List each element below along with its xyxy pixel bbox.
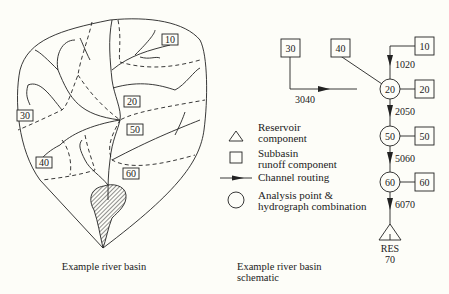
svg-text:50: 50 — [420, 131, 430, 142]
svg-text:60: 60 — [420, 177, 430, 188]
subbasin-boundary — [62, 140, 71, 175]
svg-text:40: 40 — [39, 157, 49, 168]
tributary — [140, 57, 160, 58]
reservoir-area — [91, 185, 126, 248]
routing-arrow-2050 — [387, 105, 393, 117]
main-channel — [108, 20, 120, 200]
reach-label-3040: 3040 — [295, 94, 315, 105]
subbasin-label-60: 60 — [123, 168, 139, 179]
routing-arrow-1020 — [387, 55, 393, 66]
reservoir-legend-icon — [229, 131, 243, 141]
reach-label-1020: 1020 — [395, 59, 415, 70]
junction-node-60: 60 — [380, 172, 400, 192]
reach-label-5060: 5060 — [395, 153, 415, 164]
subbasin-legend-icon — [230, 152, 242, 163]
junction-node-50: 50 — [380, 126, 400, 146]
subbasin-label-50: 50 — [127, 124, 143, 135]
subbasin-boundary — [118, 20, 200, 67]
tributary — [80, 140, 108, 185]
subbasin-node-20: 20 — [415, 80, 434, 98]
legend-subbasin-line2: runoff component — [258, 158, 337, 170]
subbasin-label-30: 30 — [17, 110, 33, 121]
svg-text:50: 50 — [130, 124, 140, 135]
routing-arrow-3040 — [318, 86, 330, 92]
svg-text:50: 50 — [385, 131, 395, 142]
tributary — [113, 68, 200, 90]
tributary — [112, 120, 200, 160]
basin-caption: Example river basin — [62, 261, 147, 272]
svg-text:70: 70 — [385, 254, 395, 265]
reach-label-2050: 2050 — [395, 106, 415, 117]
svg-text:20: 20 — [385, 84, 395, 95]
svg-text:10: 10 — [420, 41, 430, 52]
routing-arrow-5060 — [387, 152, 393, 164]
subbasin-node-10: 10 — [415, 37, 434, 55]
svg-text:30: 30 — [286, 43, 296, 54]
svg-text:30: 30 — [20, 110, 30, 121]
subbasin-node-30: 30 — [281, 39, 300, 57]
svg-text:20: 20 — [420, 84, 430, 95]
tributary — [175, 112, 185, 135]
subbasin-label-10: 10 — [162, 34, 178, 45]
schematic-caption-line2: schematic — [237, 272, 279, 283]
subbasin-node-50: 50 — [415, 127, 434, 145]
tributary — [135, 30, 155, 55]
legend-analysis-line2: hydrograph combination — [258, 200, 367, 212]
legend-routing: Channel routing — [258, 171, 330, 183]
svg-text:40: 40 — [336, 43, 346, 54]
routing-legend-icon — [220, 176, 252, 181]
reach-label-6070: 6070 — [395, 199, 415, 210]
routing-arrow-6070 — [387, 198, 393, 210]
svg-text:20: 20 — [127, 96, 137, 107]
tributary — [27, 84, 62, 110]
tributary — [80, 38, 90, 60]
subbasin-label-20: 20 — [124, 96, 140, 107]
reservoir-node: RES 70 — [379, 224, 401, 265]
tributary — [40, 120, 120, 160]
legend-reservoir-line2: component — [258, 132, 307, 144]
junction-node-20: 20 — [380, 79, 400, 99]
svg-text:60: 60 — [385, 177, 395, 188]
analysis-point-legend-icon — [228, 192, 244, 208]
subbasin-label-40: 40 — [36, 157, 52, 168]
tributary — [57, 40, 120, 120]
tributary — [35, 50, 58, 70]
svg-text:60: 60 — [126, 168, 136, 179]
schematic-caption-line1: Example river basin — [237, 261, 322, 272]
subbasin-node-40: 40 — [331, 39, 350, 57]
svg-text:10: 10 — [165, 34, 175, 45]
subbasin-node-60: 60 — [415, 173, 434, 191]
legend: Reservoir component Subbasin runoff comp… — [220, 121, 367, 212]
river-basin-map: 10 20 30 40 50 60 Example river basin — [17, 19, 207, 272]
svg-text:RES: RES — [381, 243, 399, 254]
